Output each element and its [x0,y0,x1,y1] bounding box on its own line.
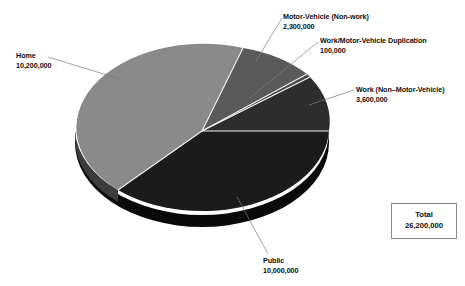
callout-public: Public 10,000,000 [263,256,298,276]
callout-public-label: Public [263,256,298,266]
total-box-label: Total [415,210,433,221]
callout-work: Work (Non–Motor-Vehicle) 3,600,000 [356,85,445,105]
callout-duplication-value: 100,000 [320,46,427,56]
callout-home-value: 10,200,000 [16,61,51,71]
callout-work-label: Work (Non–Motor-Vehicle) [356,85,445,95]
pie-slices [76,44,329,211]
total-box-value: 26,200,000 [405,221,443,232]
callout-public-value: 10,000,000 [263,266,298,276]
callout-work-value: 3,600,000 [356,95,445,105]
callout-home: Home 10,200,000 [16,51,51,71]
callout-motor-vehicle-nonwork-label: Motor-Vehicle (Non-work) [283,12,369,22]
chart-canvas: Home 10,200,000 Motor-Vehicle (Non-work)… [0,0,465,286]
callout-duplication-label: Work/Motor-Vehicle Duplication [320,36,427,46]
leader-line-home [48,57,120,79]
callout-motor-vehicle-nonwork: Motor-Vehicle (Non-work) 2,300,000 [283,12,369,32]
callout-home-label: Home [16,51,51,61]
callout-motor-vehicle-nonwork-value: 2,300,000 [283,22,369,32]
callout-duplication: Work/Motor-Vehicle Duplication 100,000 [320,36,427,56]
total-box: Total 26,200,000 [391,203,457,239]
